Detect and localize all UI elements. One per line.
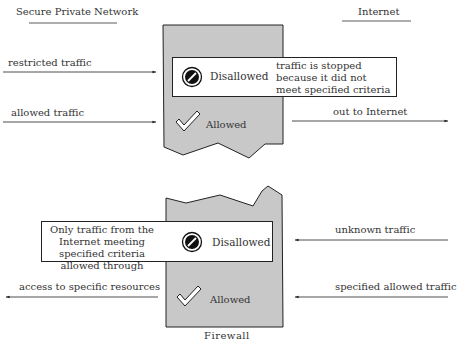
no-entry-icon xyxy=(181,66,203,88)
label-specified-allowed-traffic: specified allowed traffic xyxy=(335,281,457,293)
label-out-to-internet: out to Internet xyxy=(333,106,407,118)
label-allowed-traffic: allowed traffic xyxy=(11,107,84,119)
bottom-disallowed-label: Disallowed xyxy=(212,236,270,248)
top-disallowed-label: Disallowed xyxy=(210,70,268,82)
no-entry-icon xyxy=(181,231,203,253)
bottom-disallowed-box: Only traffic from the Internet meeting s… xyxy=(41,221,273,262)
top-disallowed-box: Disallowed traffic is stopped because it… xyxy=(172,57,397,97)
bottom-disallowed-note: Only traffic from the Internet meeting s… xyxy=(43,224,161,272)
heading-firewall: Firewall xyxy=(204,330,250,342)
top-allowed-label: Allowed xyxy=(206,119,247,131)
top-disallowed-note: traffic is stopped because it did not me… xyxy=(276,60,394,96)
label-access-to-resources: access to specific resources xyxy=(19,281,160,293)
bottom-allowed-label: Allowed xyxy=(210,294,251,306)
checkmark-icon xyxy=(176,285,204,307)
label-unknown-traffic: unknown traffic xyxy=(335,224,415,236)
heading-internet: Internet xyxy=(358,6,399,18)
checkmark-icon xyxy=(175,110,203,132)
label-restricted-traffic: restricted traffic xyxy=(8,57,92,69)
heading-secure-private-network: Secure Private Network xyxy=(16,6,138,18)
